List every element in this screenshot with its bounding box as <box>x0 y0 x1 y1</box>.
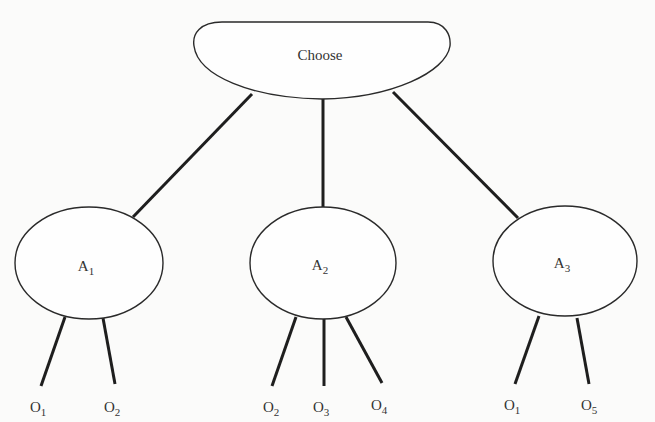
outcome-labels: O1 O2 O2 O3 O4 O1 O5 <box>30 397 598 418</box>
edge-a3-o1 <box>515 316 539 384</box>
edge-a2-o2 <box>272 317 296 386</box>
outcome-label-a1-o2: O2 <box>104 399 120 418</box>
edge-a3-o5 <box>577 318 589 384</box>
alternative-node-a1-shape <box>15 207 163 319</box>
decision-tree-diagram: Choose A1 A2 A3 O1 O2 O2 O3 O4 O1 O5 <box>0 0 655 422</box>
outcome-label-a2-o2: O2 <box>263 399 279 418</box>
outcome-label-a3-o1: O1 <box>504 397 520 416</box>
edge-a1-o1 <box>41 317 65 386</box>
outcome-label-a2-o4: O4 <box>371 397 388 416</box>
root-node-label: Choose <box>298 47 343 63</box>
root-node: Choose <box>194 22 450 99</box>
outcome-label-a3-o5: O5 <box>581 397 598 416</box>
outcome-label-a1-o1: O1 <box>30 399 46 418</box>
alternative-node-a2: A2 <box>250 207 396 319</box>
outcome-edges <box>41 316 589 386</box>
alternative-node-a3-shape <box>493 206 637 316</box>
edge-a1-o2 <box>103 318 115 384</box>
outcome-label-a2-o3: O3 <box>313 399 330 418</box>
edge-a2-o4 <box>346 317 382 383</box>
root-edges <box>133 92 518 218</box>
edge-choose-a3 <box>393 92 518 218</box>
alternative-node-a2-shape <box>250 207 396 319</box>
alternative-node-a3: A3 <box>493 206 637 316</box>
alternative-node-a1: A1 <box>15 207 163 319</box>
edge-choose-a1 <box>133 94 252 217</box>
